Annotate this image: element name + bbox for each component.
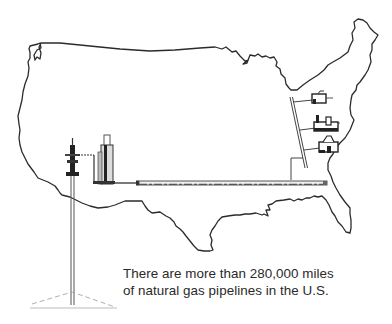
pipeline-illustration: There are more than 280,000 miles of nat… xyxy=(0,0,392,324)
house xyxy=(312,91,333,104)
transmission-pipeline xyxy=(114,181,327,186)
us-map-outline xyxy=(18,19,378,251)
building xyxy=(319,136,338,153)
factory xyxy=(314,115,340,131)
caption: There are more than 280,000 miles of nat… xyxy=(123,265,383,299)
distribution-line xyxy=(290,97,320,180)
caption-line-2: of natural gas pipelines in the U.S. xyxy=(123,282,383,299)
caption-line-1: There are more than 280,000 miles xyxy=(123,265,383,282)
processing-plant xyxy=(93,135,115,184)
